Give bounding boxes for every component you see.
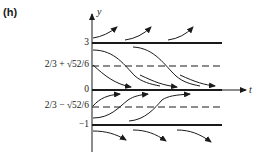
t-axis-label: t (249, 84, 252, 95)
y-tick-minus1: −1 (79, 119, 89, 129)
y-tick-lower-inflection: 2/3 − √52/6 (45, 100, 89, 110)
y-axis-label: y (97, 6, 101, 17)
phase-line-diagram (0, 0, 258, 157)
y-tick-0: 0 (84, 84, 89, 94)
y-tick-upper-inflection: 2/3 + √52/6 (45, 59, 89, 69)
y-tick-3: 3 (84, 37, 89, 47)
